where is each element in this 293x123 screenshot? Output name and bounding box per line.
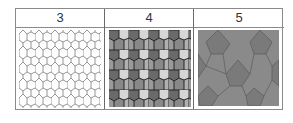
cell-pattern-3 [16,28,104,109]
column-header-4: 4 [105,9,193,28]
column-4: 4 [104,9,193,109]
hexagon-pentagon-tiling-image [198,30,279,106]
pentagon-shaded-tiling-image [109,30,191,107]
column-header-3: 3 [16,9,104,28]
column-3: 3 [16,9,104,109]
cell-pattern-4 [105,28,193,109]
tiling-table: 3 4 [15,8,283,110]
column-5: 5 [193,9,284,109]
column-header-5: 5 [194,9,284,28]
cell-pattern-5 [194,28,284,109]
pentagon-outline-tiling-image [19,30,101,108]
